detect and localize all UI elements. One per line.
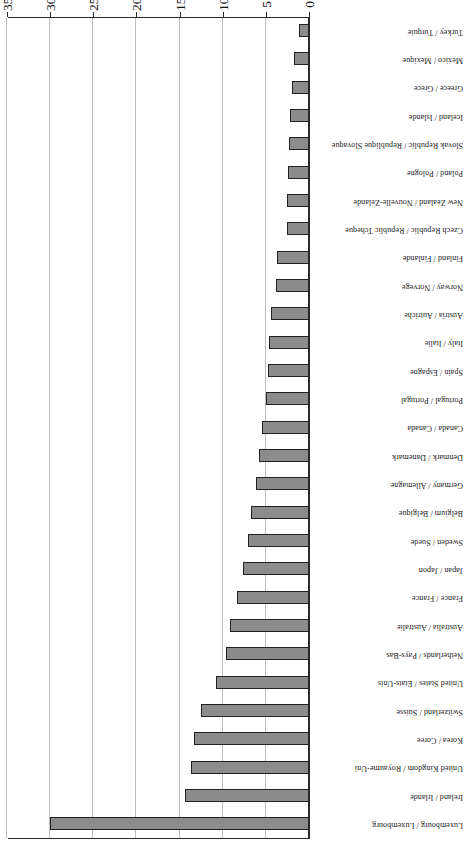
category-label-8: France / France <box>310 584 465 612</box>
table-row <box>8 498 309 526</box>
category-label-4: Switzerland / Suisse <box>310 697 465 725</box>
category-label-13: Denmark / Danemark <box>310 442 465 470</box>
table-row <box>8 668 309 696</box>
tick-label-30: 30 <box>44 0 58 21</box>
table-row <box>8 753 309 781</box>
table-row <box>8 45 309 73</box>
table-row <box>8 271 309 299</box>
category-label-21: Czech Republic / Republic Tcheque <box>310 216 465 244</box>
category-label-6: Netherlands / Pays-Bas <box>310 641 465 669</box>
bar-21[interactable] <box>287 222 309 235</box>
table-row <box>8 413 309 441</box>
bar-26[interactable] <box>292 81 309 94</box>
table-row <box>8 781 309 809</box>
category-label-9: Japan / Japon <box>310 556 465 584</box>
bar-16[interactable] <box>268 364 309 377</box>
table-row <box>8 385 309 413</box>
category-label-27: Mexico / Mexique <box>310 46 465 74</box>
category-label-11: Belgium / Belgique <box>310 499 465 527</box>
category-label-1: Ireland / Irlande <box>310 782 465 810</box>
table-row <box>8 555 309 583</box>
category-label-19: Norway / Norvege <box>310 272 465 300</box>
category-label-18: Austria / Autriche <box>310 301 465 329</box>
table-row <box>8 101 309 129</box>
bar-9[interactable] <box>243 562 309 575</box>
table-row <box>8 470 309 498</box>
bar-17[interactable] <box>269 336 309 349</box>
bar-3[interactable] <box>194 732 309 745</box>
bar-5[interactable] <box>216 676 309 689</box>
bar-19[interactable] <box>276 279 309 292</box>
bar-18[interactable] <box>271 307 309 320</box>
chart-figure: Luxembourg / LuxembourgIreland / Irlande… <box>0 0 469 863</box>
bar-15[interactable] <box>266 392 309 405</box>
bar-13[interactable] <box>259 449 309 462</box>
category-label-28: Turkey / Turquie <box>310 17 465 45</box>
category-label-3: Korea / Coree <box>310 726 465 754</box>
tick-label-5: 5 <box>260 0 274 21</box>
value-axis-tick-labels: 05101520253035 <box>8 0 310 11</box>
table-row <box>8 640 309 668</box>
bar-8[interactable] <box>237 591 309 604</box>
category-label-20: Finland / Finlande <box>310 244 465 272</box>
bar-20[interactable] <box>277 251 309 264</box>
category-label-24: Slovak Republic / Republique Slovaque <box>310 131 465 159</box>
tick-label-35: 35 <box>1 0 15 21</box>
table-row <box>8 611 309 639</box>
table-row <box>8 243 309 271</box>
table-row <box>8 810 309 838</box>
bar-14[interactable] <box>262 421 309 434</box>
bar-12[interactable] <box>256 477 309 490</box>
category-label-16: Spain / Espagne <box>310 357 465 385</box>
category-label-26: Greece / Grece <box>310 74 465 102</box>
tick-label-10: 10 <box>217 0 231 21</box>
bar-1[interactable] <box>185 789 309 802</box>
table-row <box>8 130 309 158</box>
table-row <box>8 328 309 356</box>
category-label-0: Luxembourg / Luxembourg <box>310 811 465 839</box>
category-axis-labels: Luxembourg / LuxembourgIreland / Irlande… <box>310 17 465 839</box>
category-label-7: Australia / Australie <box>310 612 465 640</box>
table-row <box>8 186 309 214</box>
bar-11[interactable] <box>251 506 309 519</box>
category-label-10: Sweden / Suede <box>310 527 465 555</box>
bar-27[interactable] <box>294 52 309 65</box>
table-row <box>8 158 309 186</box>
category-label-14: Canada / Canada <box>310 414 465 442</box>
category-label-17: Italy / Italie <box>310 329 465 357</box>
chart-plot-area: Luxembourg / LuxembourgIreland / Irlande… <box>8 17 310 839</box>
table-row <box>8 73 309 101</box>
bar-2[interactable] <box>191 761 309 774</box>
category-label-2: United Kingdom / Royaume-Uni <box>310 754 465 782</box>
bar-4[interactable] <box>201 704 309 717</box>
category-label-15: Portugal / Portugal <box>310 386 465 414</box>
bar-6[interactable] <box>226 647 309 660</box>
table-row <box>8 356 309 384</box>
bar-22[interactable] <box>287 194 309 207</box>
table-row <box>8 526 309 554</box>
bar-23[interactable] <box>288 166 309 179</box>
bar-0[interactable] <box>50 817 309 830</box>
bar-series <box>8 18 309 838</box>
bar-7[interactable] <box>230 619 309 632</box>
tick-label-20: 20 <box>131 0 145 21</box>
table-row <box>8 725 309 753</box>
bar-10[interactable] <box>248 534 309 547</box>
category-label-12: Germany / Allemagne <box>310 471 465 499</box>
table-row <box>8 441 309 469</box>
bar-28[interactable] <box>299 24 309 37</box>
table-row <box>8 583 309 611</box>
category-label-23: Poland / Pologne <box>310 159 465 187</box>
bar-24[interactable] <box>289 137 309 150</box>
plot-frame <box>8 17 310 839</box>
gridline-35 <box>6 18 7 838</box>
category-label-25: Iceland / Islande <box>310 102 465 130</box>
bar-25[interactable] <box>290 109 309 122</box>
table-row <box>8 696 309 724</box>
tick-label-25: 25 <box>88 0 102 21</box>
table-row <box>8 300 309 328</box>
table-row <box>8 215 309 243</box>
tick-label-15: 15 <box>174 0 188 21</box>
category-label-22: New Zealand / Nouvelle-Zelande <box>310 187 465 215</box>
category-label-5: United States / Etats-Unis <box>310 669 465 697</box>
